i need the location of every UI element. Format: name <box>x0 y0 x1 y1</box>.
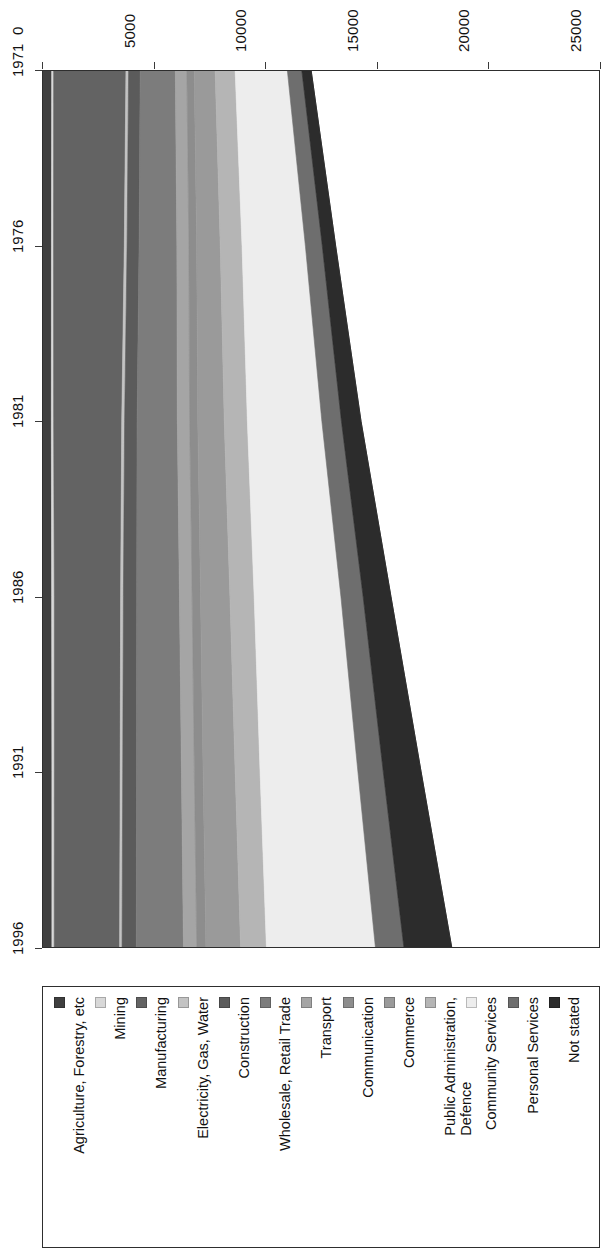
legend-item-label: Transport <box>318 997 334 1059</box>
legend-item[interactable]: Manufacturing <box>136 997 175 1239</box>
value-tick-label: 10000 <box>233 0 297 62</box>
legend-item-label: Public Administration, Defence <box>442 997 474 1136</box>
year-tick-label: 1991 <box>0 746 34 798</box>
legend-item-label: Mining <box>112 997 128 1040</box>
year-tick-label: 1986 <box>0 571 34 623</box>
legend-color-swatch <box>301 997 312 1008</box>
stacked-area-chart-figure: 0500010000150002000025000 19711976198119… <box>0 0 612 1255</box>
legend-item[interactable]: Not stated <box>549 997 588 1239</box>
area-band <box>43 71 52 947</box>
legend-item[interactable]: Public Administration, Defence <box>425 997 464 1239</box>
legend-item[interactable]: Wholesale, Retail Trade <box>260 997 299 1239</box>
year-tick-label: 1976 <box>0 220 34 272</box>
legend-item-label: Not stated <box>566 997 582 1063</box>
legend-color-swatch <box>95 997 106 1008</box>
legend-item-label: Electricity, Gas, Water <box>195 997 211 1139</box>
legend-item[interactable]: Agriculture, Forestry, etc <box>54 997 93 1239</box>
year-tick-mark <box>35 948 42 949</box>
legend-item-label: Manufacturing <box>153 997 169 1089</box>
area-band <box>54 71 126 947</box>
legend-item-label: Agriculture, Forestry, etc <box>71 997 87 1154</box>
legend-item[interactable]: Communication <box>343 997 382 1239</box>
year-tick-mark <box>35 772 42 773</box>
legend-color-swatch <box>549 997 560 1008</box>
legend: Not statedPersonal ServicesCommunity Ser… <box>42 986 600 1248</box>
legend-item-label: Construction <box>236 997 252 1078</box>
value-tick-mark <box>154 62 155 69</box>
year-tick-mark <box>35 597 42 598</box>
legend-item[interactable]: Mining <box>95 997 134 1239</box>
year-tick-label: 1981 <box>0 395 34 447</box>
legend-color-swatch <box>343 997 354 1008</box>
value-tick-label: 25000 <box>568 0 612 62</box>
legend-item-label: Community Services <box>483 997 499 1130</box>
legend-item[interactable]: Transport <box>301 997 340 1239</box>
value-tick-mark <box>265 62 266 69</box>
legend-item[interactable]: Construction <box>219 997 258 1239</box>
legend-color-swatch <box>508 997 519 1008</box>
legend-item-label: Personal Services <box>525 997 541 1114</box>
legend-color-swatch <box>425 997 436 1008</box>
legend-color-swatch <box>219 997 230 1008</box>
year-tick-label: 1996 <box>0 922 34 974</box>
legend-color-swatch <box>260 997 271 1008</box>
value-tick-mark <box>42 62 43 69</box>
legend-color-swatch <box>54 997 65 1008</box>
value-tick-label: 20000 <box>456 0 520 62</box>
value-tick-mark <box>377 62 378 69</box>
value-tick-label: 15000 <box>345 0 409 62</box>
value-tick-mark <box>600 62 601 69</box>
legend-item-label: Communication <box>360 997 376 1098</box>
legend-color-swatch <box>136 997 147 1008</box>
legend-item-label: Wholesale, Retail Trade <box>277 997 293 1151</box>
plot-area <box>42 70 600 948</box>
legend-item-label: Commerce <box>401 997 417 1068</box>
value-axis: 0500010000150002000025000 <box>0 0 612 70</box>
legend-color-swatch <box>384 997 395 1008</box>
year-axis: 197119761981198619911996 <box>0 60 42 960</box>
legend-entries: Not statedPersonal ServicesCommunity Ser… <box>43 987 599 1247</box>
legend-item[interactable]: Commerce <box>384 997 423 1239</box>
legend-item[interactable]: Electricity, Gas, Water <box>178 997 217 1239</box>
year-tick-mark <box>35 421 42 422</box>
year-tick-label: 1971 <box>0 44 34 96</box>
legend-color-swatch <box>178 997 189 1008</box>
value-tick-label: 5000 <box>122 0 186 62</box>
year-tick-mark <box>35 246 42 247</box>
value-tick-mark <box>488 62 489 69</box>
year-tick-mark <box>35 70 42 71</box>
stacked-area-plot <box>43 71 599 947</box>
legend-item[interactable]: Personal Services <box>508 997 547 1239</box>
